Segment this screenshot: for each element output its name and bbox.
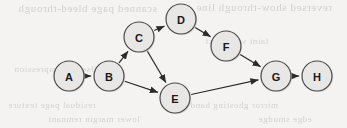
edge-b-to-c bbox=[119, 51, 128, 63]
node-label: G bbox=[272, 71, 281, 83]
edge-b-to-e bbox=[125, 81, 158, 92]
edge-e-to-g bbox=[191, 80, 258, 95]
node-label: C bbox=[135, 32, 143, 44]
graph-canvas: ABCDEFGH bbox=[0, 0, 347, 128]
node-layer: ABCDEFGH bbox=[54, 4, 333, 114]
graph-node-c[interactable]: C bbox=[124, 22, 155, 53]
graph-node-e[interactable]: E bbox=[160, 83, 191, 114]
graph-node-a[interactable]: A bbox=[54, 61, 85, 92]
graph-node-d[interactable]: D bbox=[166, 4, 197, 35]
graph-node-h[interactable]: H bbox=[302, 61, 333, 92]
node-label: F bbox=[223, 41, 230, 53]
node-label: B bbox=[105, 71, 113, 83]
node-label: D bbox=[177, 14, 185, 26]
edge-c-to-e bbox=[147, 51, 165, 82]
node-label: A bbox=[65, 71, 73, 83]
graph-node-b[interactable]: B bbox=[94, 61, 125, 92]
edge-c-to-d bbox=[154, 26, 164, 30]
node-label: H bbox=[313, 71, 321, 83]
graph-node-g[interactable]: G bbox=[261, 61, 292, 92]
edge-d-to-f bbox=[195, 27, 210, 36]
edge-f-to-g bbox=[240, 54, 260, 66]
graph-node-f[interactable]: F bbox=[211, 31, 242, 62]
node-label: E bbox=[171, 93, 178, 105]
dag-figure: scanned page bleed-throughreversed show-… bbox=[0, 0, 347, 128]
